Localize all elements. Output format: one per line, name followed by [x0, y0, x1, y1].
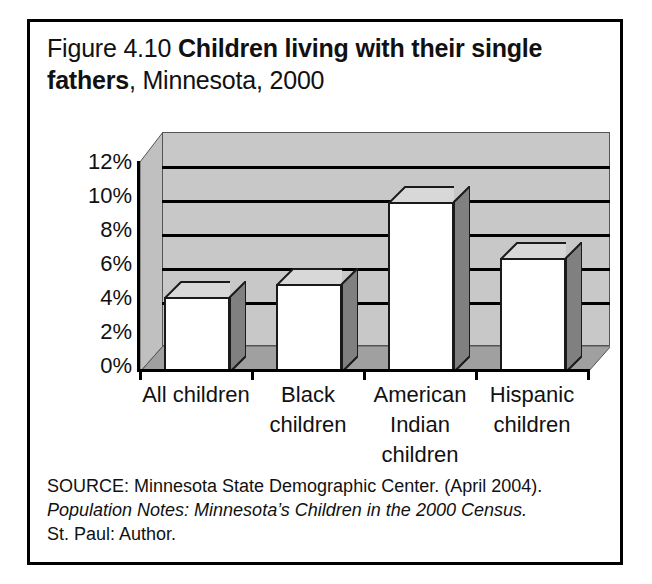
- x-tick-mark-1: [251, 369, 254, 380]
- bar-black-children-top: [276, 268, 342, 284]
- x-tick-mark-4: [587, 369, 590, 380]
- x-tick-mark-2: [363, 369, 366, 380]
- bar-american-indian-children[interactable]: [388, 202, 454, 372]
- y-tick-label-10: 10%: [68, 185, 132, 207]
- x-label-american-indian-children: American Indian children: [356, 380, 484, 470]
- bar-american-indian-children-front: [388, 202, 454, 372]
- bar-american-indian-children-top: [388, 186, 454, 202]
- bar-hispanic-children-front: [500, 258, 566, 372]
- y-tick-label-6: 6%: [68, 253, 132, 275]
- bar-all-children-front: [164, 297, 230, 372]
- bar-hispanic-children[interactable]: [500, 258, 566, 372]
- x-tick-mark-3: [475, 369, 478, 380]
- bar-all-children-side: [230, 281, 246, 372]
- x-label-hispanic-children: Hispanic children: [468, 380, 596, 440]
- figure-panel: Figure 4.10 Children living with their s…: [27, 19, 623, 565]
- source-line-1: SOURCE: Minnesota State Demographic Cent…: [47, 474, 603, 498]
- source-line-3: St. Paul: Author.: [47, 522, 603, 546]
- x-label-all-children: All children: [132, 380, 260, 410]
- bar-black-children-side: [342, 268, 358, 372]
- figure-title-suffix: , Minnesota, 2000: [129, 66, 324, 94]
- x-label-black-children: Black children: [244, 380, 372, 440]
- x-tick-mark-0: [139, 369, 142, 380]
- bar-chart: 12% 10% 8% 6% 4% 2% 0%: [38, 118, 618, 488]
- bar-hispanic-children-top: [500, 242, 566, 258]
- y-tick-label-8: 8%: [68, 219, 132, 241]
- source-note: SOURCE: Minnesota State Demographic Cent…: [47, 474, 603, 546]
- bar-all-children-top: [164, 281, 230, 297]
- bar-american-indian-children-side: [454, 186, 470, 372]
- x-axis-labels: All children Black children American Ind…: [140, 380, 610, 480]
- y-tick-label-0: 0%: [68, 355, 132, 377]
- y-tick-label-4: 4%: [68, 287, 132, 309]
- bar-all-children[interactable]: [164, 297, 230, 372]
- y-tick-label-12: 12%: [68, 151, 132, 173]
- bar-black-children[interactable]: [276, 284, 342, 372]
- gridline-10: [162, 166, 610, 169]
- bar-hispanic-children-side: [566, 242, 582, 372]
- plot-area: [140, 132, 610, 372]
- bar-black-children-front: [276, 284, 342, 372]
- gridline-8: [162, 200, 610, 203]
- y-axis-labels: 12% 10% 8% 6% 4% 2% 0%: [60, 118, 132, 418]
- figure-title-prefix: Figure 4.10: [47, 34, 178, 62]
- source-line-2: Population Notes: Minnesota’s Children i…: [47, 498, 603, 522]
- y-tick-label-2: 2%: [68, 321, 132, 343]
- gridline-6: [162, 234, 610, 237]
- figure-title: Figure 4.10 Children living with their s…: [47, 32, 603, 96]
